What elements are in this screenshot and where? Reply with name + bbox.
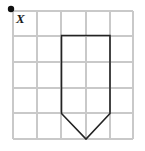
figure-canvas: X	[0, 0, 145, 151]
point-x-dot	[8, 6, 14, 12]
point-x-label: X	[15, 11, 25, 26]
geometry-diagram: X	[0, 0, 145, 151]
